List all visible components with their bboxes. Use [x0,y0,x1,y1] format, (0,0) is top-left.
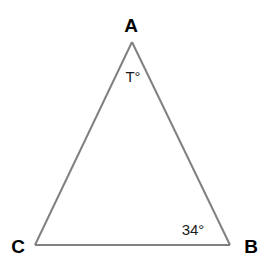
side-ca [35,42,132,245]
angle-label-b: 34° [182,221,205,238]
vertex-label-c: C [11,236,25,257]
vertex-label-b: B [244,236,258,257]
triangle-diagram: A B C T° 34° [0,0,273,268]
angle-label-a: T° [125,68,140,85]
vertex-label-a: A [124,15,138,36]
side-ab [132,42,230,245]
